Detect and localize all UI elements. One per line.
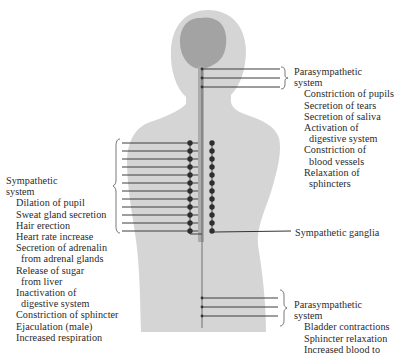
effect-item: Secretion of saliva <box>294 111 394 122</box>
effect-item: Secretion of tears <box>294 100 394 111</box>
effect-item-cont: from adrenal glands <box>6 253 119 264</box>
sympathetic-title: Sympathetic <box>6 175 119 186</box>
upper-parasympathetic-label: Parasympathetic system Constriction of p… <box>294 66 394 189</box>
effect-item: Constriction of sphincter <box>6 309 119 320</box>
effect-item: Sweat gland secretion <box>6 209 119 220</box>
sympathetic-title-2: system <box>6 186 119 197</box>
effect-item: Ejaculation (male) <box>6 321 119 332</box>
effect-item-cont: digestive system <box>294 133 394 144</box>
effect-item: Bladder contractions <box>294 321 390 332</box>
effect-item: Secretion of adrenalin <box>6 242 119 253</box>
effect-item: Constriction of pupils <box>294 88 394 99</box>
effect-item: Increased blood to <box>294 344 390 355</box>
effect-item-cont: digestive system <box>6 298 119 309</box>
spinal-cord <box>198 66 204 242</box>
effect-item-cont: sphincters <box>294 178 394 189</box>
lower-parasympathetic-title: Parasympathetic <box>294 299 390 310</box>
effect-item: Hair erection <box>6 220 119 231</box>
effect-item: Constriction of <box>294 144 394 155</box>
lower-parasympathetic-label: Parasympathetic system Bladder contracti… <box>294 299 390 355</box>
sympathetic-ganglia-label: Sympathetic ganglia <box>295 227 379 238</box>
effect-item: Release of sugar <box>6 265 119 276</box>
effect-item: Activation of <box>294 122 394 133</box>
effect-item-cont: from liver <box>6 276 119 287</box>
upper-parasympathetic-title-2: system <box>294 77 394 88</box>
effect-item: Sphincter relaxation <box>294 333 390 344</box>
effect-item: Increased respiration <box>6 332 119 343</box>
effect-item: Inactivation of <box>6 287 119 298</box>
lower-parasympathetic-brace <box>280 290 287 326</box>
sympathetic-label: Sympathetic system Dilation of pupil Swe… <box>6 175 119 343</box>
lower-parasympathetic-title-2: system <box>294 310 390 321</box>
effect-item: Relaxation of <box>294 167 394 178</box>
upper-parasympathetic-brace <box>281 67 288 89</box>
effect-item-cont: blood vessels <box>294 156 394 167</box>
upper-parasympathetic-title: Parasympathetic <box>294 66 394 77</box>
effect-item: Dilation of pupil <box>6 197 119 208</box>
effect-item: Heart rate increase <box>6 231 119 242</box>
